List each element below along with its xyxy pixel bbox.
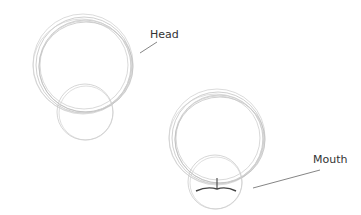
head-label: Head xyxy=(150,28,179,41)
sketch-canvas xyxy=(0,0,361,215)
mouth-label: Mouth xyxy=(313,153,347,166)
head-figure xyxy=(33,14,133,140)
mouth-leader-line xyxy=(253,170,320,188)
mouth-figure xyxy=(169,89,265,209)
head-leader-line xyxy=(140,42,157,53)
